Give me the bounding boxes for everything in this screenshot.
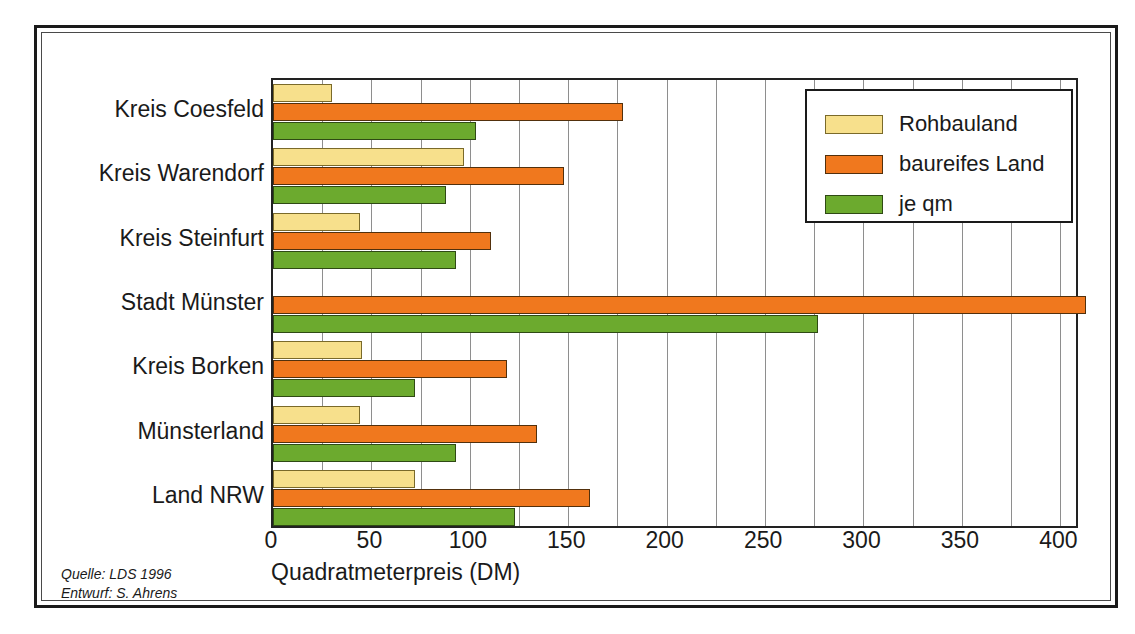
bar (273, 84, 332, 102)
legend-swatch-rohbauland (825, 115, 883, 134)
legend-label-je-qm: je qm (899, 193, 953, 215)
x-tick-0: 0 (265, 529, 278, 552)
legend: Rohbauland baureifes Land je qm (805, 89, 1073, 223)
x-tick-200: 200 (645, 529, 683, 552)
bar (273, 251, 456, 269)
category-label: Kreis Warendorf (52, 162, 264, 185)
source-line-quelle: Quelle: LDS 1996 (61, 565, 177, 584)
x-axis-tick-labels: 050100150200250300350400 (271, 529, 1078, 563)
bar (273, 470, 415, 488)
legend-item-rohbauland: Rohbauland (825, 113, 1018, 135)
bar (273, 148, 464, 166)
bar (273, 213, 360, 231)
bar (273, 425, 537, 443)
legend-item-je-qm: je qm (825, 193, 953, 215)
bar (273, 508, 515, 526)
bar (273, 360, 507, 378)
bar (273, 489, 590, 507)
legend-item-baureifes-land: baureifes Land (825, 153, 1045, 175)
legend-swatch-je-qm (825, 195, 883, 214)
legend-label-baureifes-land: baureifes Land (899, 153, 1045, 175)
category-label: Kreis Steinfurt (52, 227, 264, 250)
bar (273, 186, 446, 204)
legend-label-rohbauland: Rohbauland (899, 113, 1018, 135)
bar (273, 296, 1086, 314)
bar (273, 444, 456, 462)
x-tick-250: 250 (744, 529, 782, 552)
bar (273, 379, 415, 397)
x-tick-400: 400 (1039, 529, 1077, 552)
bar (273, 406, 360, 424)
legend-swatch-baureifes-land (825, 155, 883, 174)
bar (273, 167, 564, 185)
chart-canvas: Kreis CoesfeldKreis WarendorfKreis Stein… (0, 0, 1135, 634)
bar (273, 122, 476, 140)
bar (273, 315, 818, 333)
category-label: Kreis Coesfeld (52, 98, 264, 121)
category-label: Stadt Münster (52, 291, 264, 314)
bar (273, 232, 491, 250)
bar (273, 103, 623, 121)
source-line-entwurf: Entwurf: S. Ahrens (61, 584, 177, 603)
category-label: Kreis Borken (52, 355, 264, 378)
x-axis-title: Quadratmeterpreis (DM) (271, 561, 520, 584)
x-tick-100: 100 (449, 529, 487, 552)
x-tick-350: 350 (941, 529, 979, 552)
x-tick-150: 150 (547, 529, 585, 552)
x-tick-50: 50 (357, 529, 383, 552)
x-tick-300: 300 (842, 529, 880, 552)
category-label: Münsterland (52, 420, 264, 443)
category-axis-labels: Kreis CoesfeldKreis WarendorfKreis Stein… (52, 78, 264, 528)
bar (273, 341, 362, 359)
category-label: Land NRW (52, 484, 264, 507)
source-note: Quelle: LDS 1996 Entwurf: S. Ahrens (61, 565, 177, 603)
